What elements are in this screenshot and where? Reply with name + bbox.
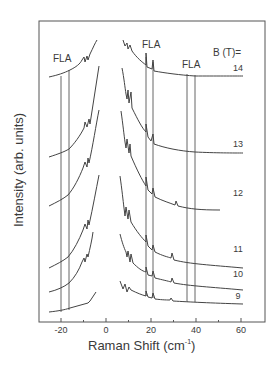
tick-label: 0 xyxy=(103,325,108,335)
trace-13-right xyxy=(122,68,243,153)
trace-12-right xyxy=(121,111,220,210)
trace-11-right xyxy=(120,176,243,268)
trace-11-left xyxy=(49,175,99,268)
tick-label: 60 xyxy=(236,325,246,335)
series-label-11: 11 xyxy=(233,244,242,254)
trace-13-left xyxy=(49,66,99,157)
series-labels: 14 13 12 11 10 9 xyxy=(233,63,243,301)
trace-14-right xyxy=(123,40,243,76)
x-tick-labels: -20 0 20 40 60 xyxy=(54,325,246,335)
fla-label-mid: FLA xyxy=(142,39,161,50)
series-label-13: 13 xyxy=(233,139,243,149)
raman-chart: -20 0 20 40 60 Raman Shift (cm-1) Intens… xyxy=(0,0,273,367)
fla-label-left: FLA xyxy=(53,53,72,64)
legend-header: B (T)= xyxy=(213,47,241,58)
tick-label: 40 xyxy=(191,325,201,335)
series-label-9: 9 xyxy=(235,291,240,301)
tick-label: -20 xyxy=(54,325,67,335)
series-label-14: 14 xyxy=(233,63,243,73)
series-label-12: 12 xyxy=(233,188,243,198)
x-axis-label: Raman Shift (cm-1) xyxy=(88,338,195,353)
x-ticks xyxy=(61,318,241,322)
trace-10-left xyxy=(49,232,93,292)
trace-9-left xyxy=(49,292,96,312)
tick-label: 20 xyxy=(146,325,156,335)
fla-label-right: FLA xyxy=(182,59,201,70)
series-label-10: 10 xyxy=(233,269,243,279)
trace-12-left xyxy=(49,110,99,206)
y-axis-label: Intensity (arb. units) xyxy=(11,113,26,227)
